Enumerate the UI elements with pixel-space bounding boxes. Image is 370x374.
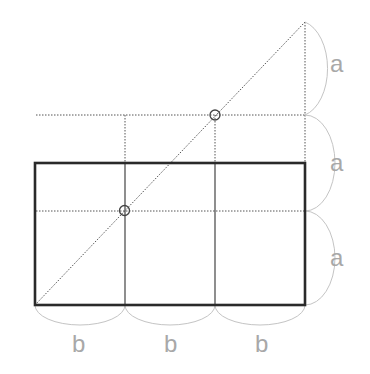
label-a-top: a	[330, 50, 344, 77]
solid-grid	[125, 163, 215, 305]
label-a-bottom: a	[330, 244, 344, 271]
label-a-middle: a	[330, 149, 344, 176]
arc-a-top	[305, 22, 328, 115]
proportion-diagram: a a a b b b	[0, 0, 370, 374]
label-b-middle: b	[164, 330, 177, 357]
main-rectangle	[35, 163, 305, 305]
label-b-right: b	[255, 330, 268, 357]
measure-arcs	[35, 22, 335, 325]
arc-b-middle	[125, 305, 215, 325]
label-b-left: b	[72, 330, 85, 357]
arc-b-left	[35, 305, 125, 325]
arc-b-right	[215, 305, 305, 325]
